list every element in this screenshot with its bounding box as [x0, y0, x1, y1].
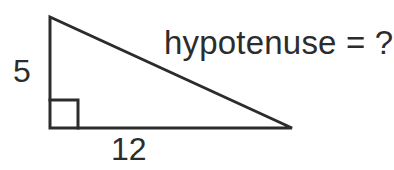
- vertical-leg-label: 5: [13, 55, 31, 87]
- hypotenuse-label: hypotenuse = ?: [164, 26, 393, 59]
- horizontal-leg-label: 12: [111, 133, 147, 165]
- right-angle-marker-icon: [50, 100, 78, 128]
- right-triangle-figure: 5 12 hypotenuse = ?: [0, 0, 394, 170]
